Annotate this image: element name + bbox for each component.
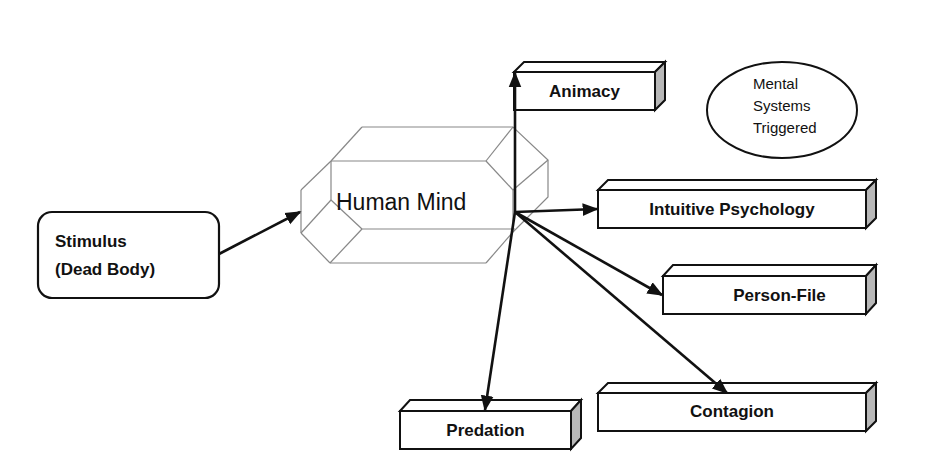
stimulus-line2: (Dead Body): [55, 256, 155, 284]
legend-line2: Systems: [753, 95, 817, 117]
contagion-label: Contagion: [598, 402, 866, 422]
legend-line1: Mental: [753, 73, 817, 95]
legend-label: Mental Systems Triggered: [753, 73, 817, 139]
animacy-label: Animacy: [514, 82, 655, 102]
arrow-stimulus-to-mind: [219, 212, 300, 254]
arrows: [219, 73, 727, 410]
stimulus-label: Stimulus (Dead Body): [55, 228, 155, 284]
arrow-to-intuitive-psychology: [515, 209, 597, 212]
human-mind-label: Human Mind: [336, 189, 466, 216]
arrow-to-predation: [485, 212, 515, 410]
person-file-label: Person-File: [693, 286, 866, 306]
legend-line3: Triggered: [753, 117, 817, 139]
predation-label: Predation: [400, 421, 571, 441]
intuitive-psychology-label: Intuitive Psychology: [598, 200, 866, 220]
stimulus-line1: Stimulus: [55, 228, 155, 256]
